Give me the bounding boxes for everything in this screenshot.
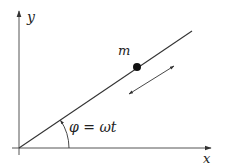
mass-label: m	[118, 44, 130, 57]
diagram-canvas	[0, 0, 226, 168]
x-axis-label: x	[203, 152, 210, 165]
mass-dot	[133, 63, 141, 71]
angle-label: φ = ωt	[69, 120, 116, 134]
y-axis-label: y	[27, 10, 35, 24]
angle-arc	[61, 120, 70, 148]
